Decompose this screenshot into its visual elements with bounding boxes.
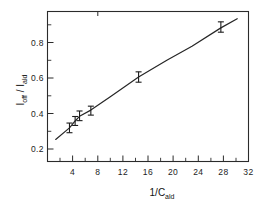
x-tick-label: 32 (243, 167, 253, 177)
y-tick-label: 0.8 (31, 38, 44, 48)
x-axis-label-main: 1/C (150, 187, 166, 198)
axes-box (48, 12, 249, 162)
x-tick-label: 20 (168, 167, 178, 177)
x-axis-label: 1/Cald (150, 187, 175, 200)
error-bar-group (66, 22, 223, 133)
x-tick-label: 8 (95, 167, 100, 177)
x-tick-label: 16 (143, 167, 153, 177)
chart-svg: 4 8 12 16 20 24 28 32 0.2 0.4 0.6 (0, 0, 276, 206)
y-tick-label: 0.6 (31, 73, 44, 83)
error-bar (136, 72, 142, 82)
x-axis-label-sub: ald (165, 193, 174, 200)
data-curve (56, 19, 238, 140)
x-tick-label: 28 (218, 167, 228, 177)
y-axis-label-den-sub: ald (21, 74, 28, 83)
y-tick-labels: 0.2 0.4 0.6 0.8 (31, 38, 44, 155)
y-axis-label: Ioff / Iald (15, 74, 28, 105)
y-tick-label: 0.2 (31, 144, 44, 154)
y-axis-label-sep: / (15, 87, 26, 95)
svg-text:Ioff / Iald: Ioff / Iald (15, 74, 28, 105)
x-tick-label: 4 (70, 167, 75, 177)
x-tick-label: 12 (118, 167, 128, 177)
plot-frame (48, 12, 249, 162)
y-tick-label: 0.4 (31, 109, 44, 119)
svg-text:1/Cald: 1/Cald (150, 187, 175, 200)
x-tick-labels: 4 8 12 16 20 24 28 32 (70, 167, 254, 177)
x-tick-label: 24 (193, 167, 203, 177)
y-axis-label-num-sub: off (21, 95, 28, 103)
chart-figure: 4 8 12 16 20 24 28 32 0.2 0.4 0.6 (0, 0, 276, 206)
